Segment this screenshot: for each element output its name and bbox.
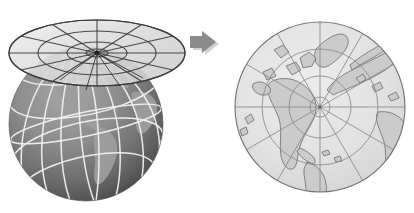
projection-diagram bbox=[0, 0, 414, 213]
transformation-arrow bbox=[190, 31, 219, 55]
polar-map-group bbox=[235, 22, 411, 213]
figure-root: Azimuthal (planar) map projection from g… bbox=[0, 0, 414, 213]
map-north-pole-marker bbox=[318, 105, 321, 108]
